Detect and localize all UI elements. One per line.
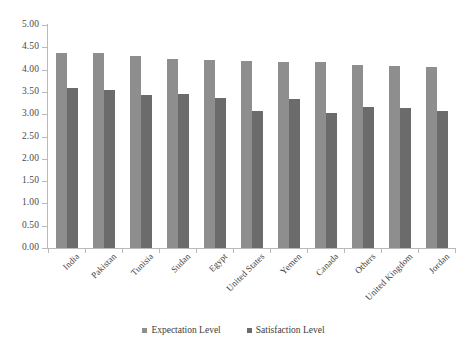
y-axis-tick-label: 0.50 (22, 221, 39, 231)
bar-expectation (167, 59, 178, 248)
bar-expectation (278, 62, 289, 248)
x-axis-category-label: Egypt (207, 252, 229, 274)
y-axis-tick-label: 2.00 (22, 154, 39, 164)
bar-expectation (352, 65, 363, 248)
x-axis-tick (344, 248, 345, 253)
bar-expectation (56, 53, 67, 248)
x-axis-category-label: India (61, 252, 81, 272)
x-axis-category-label: Sudan (169, 252, 192, 275)
y-axis-tick-label: 1.00 (22, 199, 39, 209)
bar-satisfaction (178, 94, 189, 248)
y-axis-tick (42, 70, 48, 71)
bar-expectation (130, 56, 141, 248)
x-axis-category-label: Yemen (278, 252, 302, 276)
y-axis-tick-label: 1.50 (22, 176, 39, 186)
bar-satisfaction (141, 95, 152, 248)
bar-group (130, 25, 152, 248)
legend-label: Satisfaction Level (256, 325, 325, 335)
bar-satisfaction (326, 113, 337, 248)
bar-group (93, 25, 115, 248)
y-axis-tick-label: 4.00 (22, 65, 39, 75)
bar-expectation (426, 67, 437, 248)
bar-satisfaction (67, 88, 78, 248)
x-axis-tick (418, 248, 419, 253)
bar-group (278, 25, 300, 248)
y-axis-tick (42, 137, 48, 138)
y-axis-tick (42, 47, 48, 48)
y-axis-tick-label: 0.00 (22, 243, 39, 253)
y-axis-tick (42, 92, 48, 93)
chart-legend: Expectation LevelSatisfaction Level (0, 325, 467, 335)
x-axis-tick (196, 248, 197, 253)
x-axis-category-label: Jordan (427, 252, 451, 276)
bar-group (426, 25, 448, 248)
bar-group (167, 25, 189, 248)
y-axis-tick (42, 203, 48, 204)
y-axis-tick-label: 2.50 (22, 132, 39, 142)
bar-satisfaction (104, 90, 115, 248)
bar-group (56, 25, 78, 248)
bar-group (204, 25, 226, 248)
bar-group (352, 25, 374, 248)
y-axis-tick-label: 3.50 (22, 87, 39, 97)
x-axis-tick (455, 248, 456, 253)
bar-group (241, 25, 263, 248)
x-axis-tick (48, 248, 49, 253)
x-axis-category-label: Tunisia (129, 252, 155, 278)
x-axis-tick (85, 248, 86, 253)
x-axis-category-label: Others (353, 252, 377, 276)
x-axis-tick (270, 248, 271, 253)
y-axis-tick (42, 114, 48, 115)
bar-satisfaction (252, 111, 263, 248)
y-axis-tick (42, 159, 48, 160)
x-axis-category-label: Canada (314, 252, 340, 278)
x-axis-tick (233, 248, 234, 253)
bar-satisfaction (289, 99, 300, 248)
x-axis-line (47, 248, 456, 249)
bar-satisfaction (437, 111, 448, 248)
bar-group (389, 25, 411, 248)
plot-area: 0.000.501.001.502.002.503.003.504.004.50… (48, 25, 455, 248)
x-axis-tick (122, 248, 123, 253)
bar-group (315, 25, 337, 248)
legend-swatch-icon (142, 328, 147, 333)
bar-expectation (93, 53, 104, 248)
x-axis-tick (307, 248, 308, 253)
x-axis-tick (159, 248, 160, 253)
y-axis-tick (42, 25, 48, 26)
bar-satisfaction (400, 108, 411, 248)
bar-satisfaction (215, 98, 226, 248)
x-axis-tick (381, 248, 382, 253)
legend-item: Expectation Level (142, 325, 220, 335)
bar-expectation (315, 62, 326, 248)
x-axis-category-label: Pakistan (89, 252, 118, 281)
y-axis-tick-label: 5.00 (22, 20, 39, 30)
y-axis-tick-label: 4.50 (22, 43, 39, 53)
legend-item: Satisfaction Level (247, 325, 325, 335)
y-axis-tick (42, 226, 48, 227)
legend-swatch-icon (247, 328, 252, 333)
bar-chart: 0.000.501.001.502.002.503.003.504.004.50… (0, 0, 467, 349)
bar-expectation (204, 60, 215, 248)
bar-satisfaction (363, 107, 374, 248)
y-axis-tick-label: 3.00 (22, 109, 39, 119)
bar-expectation (389, 66, 400, 248)
bar-expectation (241, 61, 252, 248)
legend-label: Expectation Level (151, 325, 220, 335)
x-axis-category-label: United States (224, 252, 265, 293)
y-axis-tick (42, 181, 48, 182)
